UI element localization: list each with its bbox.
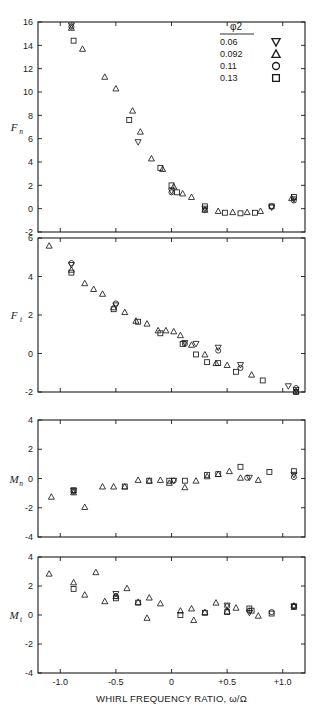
marker-square <box>205 360 210 365</box>
series-Fn-0.11 <box>69 24 297 212</box>
y-axis-label-sub-Mn: n <box>19 479 23 488</box>
panel-frame-Mt <box>38 557 305 673</box>
series-Ft-0.06 <box>68 262 299 393</box>
marker-up-triangle <box>255 477 261 482</box>
marker-square <box>127 118 132 123</box>
y-ticklabel-Ft-0: -2 <box>25 387 33 397</box>
marker-up-triangle <box>130 108 136 113</box>
figure-container: -20246810121416Fn-20246Ft-4-2024Mn-4-202… <box>0 0 319 718</box>
marker-up-triangle <box>226 468 232 473</box>
y-ticklabel-Mt-4: 4 <box>28 552 33 562</box>
marker-up-triangle <box>102 598 108 603</box>
marker-square <box>175 190 180 195</box>
series-Ft-0.092 <box>46 243 299 394</box>
y-ticklabel-Ft-2: 2 <box>28 310 33 320</box>
marker-up-triangle <box>100 291 106 296</box>
y-ticklabel-Mn-3: 2 <box>28 444 33 454</box>
marker-up-triangle <box>144 615 150 620</box>
legend-label-0.13: 0.13 <box>220 73 238 83</box>
y-axis-label-Mn: M <box>8 473 19 485</box>
marker-square <box>273 75 280 82</box>
marker-up-triangle <box>182 484 188 489</box>
marker-up-triangle <box>189 605 195 610</box>
marker-circle <box>69 260 74 265</box>
marker-square <box>238 464 243 469</box>
series-Mn-0.11 <box>71 474 296 494</box>
marker-up-triangle <box>255 613 261 618</box>
x-ticklabel-2: 0 <box>169 677 174 687</box>
marker-up-triangle <box>191 617 197 622</box>
marker-square <box>69 270 74 275</box>
marker-down-triangle <box>285 384 291 389</box>
marker-up-triangle <box>237 475 243 480</box>
marker-up-triangle <box>137 129 143 134</box>
panel-Mt: -4-2024-1.0-0.50+0.5+1.0Mt <box>8 552 305 687</box>
series-Mt-0.092 <box>46 569 297 622</box>
x-ticklabel-1: -0.5 <box>108 677 124 687</box>
y-ticklabel-Mt-3: 2 <box>28 581 33 591</box>
y-axis-label-Ft: F <box>10 309 18 321</box>
x-ticklabel-3: +0.5 <box>218 677 236 687</box>
x-ticklabel-0: -1.0 <box>52 677 68 687</box>
y-ticklabel-Mn-4: 4 <box>28 415 33 425</box>
marker-up-triangle <box>157 477 163 482</box>
marker-up-triangle <box>82 592 88 597</box>
legend: φ20.060.0920.110.13 <box>220 21 280 83</box>
marker-square <box>252 210 257 215</box>
series-Fn-0.06 <box>68 23 297 212</box>
marker-up-triangle <box>171 328 177 333</box>
marker-up-triangle <box>148 156 154 161</box>
marker-up-triangle <box>163 327 169 332</box>
marker-square <box>194 352 199 357</box>
y-axis-label-sub-Fn: n <box>19 127 23 136</box>
marker-circle <box>273 63 280 70</box>
y-ticklabel-Fn-7: 12 <box>23 64 33 74</box>
panel-frame-Ft <box>38 238 305 392</box>
marker-square <box>238 211 243 216</box>
legend-label-0.11: 0.11 <box>220 61 237 71</box>
y-ticklabel-Fn-4: 6 <box>28 134 33 144</box>
x-axis-title: WHIRL FREQUENCY RATIO, ω/Ω <box>96 693 247 704</box>
y-ticklabel-Ft-4: 6 <box>28 233 33 243</box>
marker-down-triangle <box>272 39 280 46</box>
panel-Fn: -20246810121416Fn <box>10 17 305 237</box>
marker-up-triangle <box>91 286 97 291</box>
series-Ft-0.13 <box>69 270 299 394</box>
marker-up-triangle <box>244 209 250 214</box>
y-ticklabel-Fn-1: 0 <box>28 204 33 214</box>
marker-up-triangle <box>272 50 280 57</box>
marker-circle <box>269 610 274 615</box>
marker-circle <box>269 204 274 209</box>
y-axis-label-Mt: M <box>8 609 19 621</box>
marker-square <box>222 210 227 215</box>
marker-up-triangle <box>80 46 86 51</box>
marker-up-triangle <box>258 208 264 213</box>
series-Mt-0.13 <box>71 586 296 617</box>
y-axis-label-sub-Ft: t <box>20 315 23 324</box>
y-ticklabel-Fn-9: 16 <box>23 17 33 27</box>
panel-Ft: -20246Ft <box>10 233 305 397</box>
marker-square <box>260 378 265 383</box>
marker-up-triangle <box>230 209 236 214</box>
marker-up-triangle <box>177 332 183 337</box>
y-axis-label-sub-Mt: t <box>20 615 23 624</box>
marker-up-triangle <box>157 600 163 605</box>
marker-up-triangle <box>193 478 199 483</box>
panel-frame-Fn <box>38 22 305 232</box>
marker-up-triangle <box>249 372 255 377</box>
marker-down-triangle <box>135 140 141 145</box>
y-ticklabel-Fn-5: 8 <box>28 111 33 121</box>
series-Mn-0.092 <box>48 468 261 509</box>
x-ticklabel-4: +1.0 <box>274 677 292 687</box>
y-ticklabel-Ft-1: 0 <box>28 349 33 359</box>
y-axis-label-Fn: F <box>10 121 18 133</box>
scatter-plot-figure: -20246810121416Fn-20246Ft-4-2024Mn-4-202… <box>0 0 319 718</box>
y-ticklabel-Fn-2: 2 <box>28 181 33 191</box>
series-Ft-0.11 <box>69 260 299 390</box>
marker-square <box>267 469 272 474</box>
marker-up-triangle <box>71 579 77 584</box>
marker-square <box>234 369 239 374</box>
marker-up-triangle <box>124 585 130 590</box>
marker-square <box>291 469 296 474</box>
y-ticklabel-Mn-2: 0 <box>28 474 33 484</box>
